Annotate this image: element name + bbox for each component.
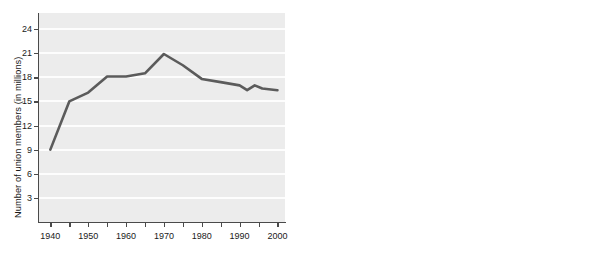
x-tick-label: 1980 bbox=[192, 231, 212, 241]
x-tick-mark bbox=[277, 222, 278, 227]
y-tick-label: 24 bbox=[22, 24, 32, 34]
x-tick-mark bbox=[69, 222, 70, 227]
x-tick-mark bbox=[202, 222, 203, 227]
y-tick-mark bbox=[34, 77, 39, 78]
y-tick-label: 9 bbox=[27, 145, 32, 155]
y-tick-mark bbox=[34, 198, 39, 199]
x-tick-mark bbox=[240, 222, 241, 227]
two-panel-line-chart-figure: Number of union members (in millions) 36… bbox=[0, 0, 595, 257]
x-tick-mark bbox=[88, 222, 89, 227]
x-axis-ticks-left: 1940195019601970198019902000 bbox=[38, 222, 286, 252]
y-axis-ticks-left: 3691215182124 bbox=[39, 13, 285, 222]
x-tick-label: 1970 bbox=[154, 231, 174, 241]
x-tick-label: 1990 bbox=[230, 231, 250, 241]
y-tick-mark bbox=[34, 101, 39, 102]
y-tick-label: 12 bbox=[22, 121, 32, 131]
y-tick-label: 15 bbox=[22, 96, 32, 106]
y-tick-label: 18 bbox=[22, 72, 32, 82]
x-tick-mark bbox=[221, 222, 222, 227]
x-tick-mark bbox=[164, 222, 165, 227]
y-tick-label: 21 bbox=[22, 48, 32, 58]
chart-panel-left: Number of union members (in millions) 36… bbox=[0, 0, 297, 257]
y-tick-label: 3 bbox=[27, 193, 32, 203]
x-tick-mark bbox=[107, 222, 108, 227]
y-tick-mark bbox=[34, 126, 39, 127]
y-tick-label: 6 bbox=[27, 169, 32, 179]
y-tick-mark bbox=[34, 150, 39, 151]
x-tick-label: 1950 bbox=[78, 231, 98, 241]
x-tick-mark bbox=[126, 222, 127, 227]
y-tick-mark bbox=[34, 174, 39, 175]
x-tick-mark bbox=[183, 222, 184, 227]
x-tick-mark bbox=[50, 222, 51, 227]
x-tick-label: 1940 bbox=[40, 231, 60, 241]
x-tick-mark bbox=[259, 222, 260, 227]
y-tick-mark bbox=[34, 53, 39, 54]
y-tick-mark bbox=[34, 29, 39, 30]
x-tick-label: 1960 bbox=[116, 231, 136, 241]
chart-panel-right: Union members as percentage of total lab… bbox=[298, 0, 595, 257]
x-tick-mark bbox=[145, 222, 146, 227]
x-tick-label: 2000 bbox=[267, 231, 287, 241]
